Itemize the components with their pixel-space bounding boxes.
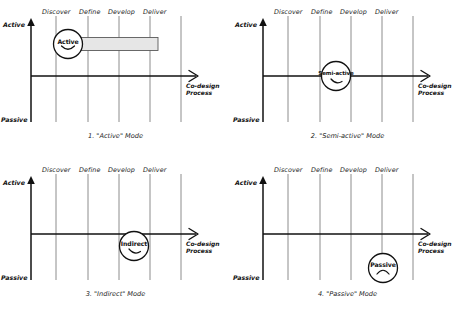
- phase-label-deliver-1: Deliver: [143, 8, 166, 16]
- phase-label-define-4: Define: [311, 166, 332, 174]
- x-axis-label-1: Co-design Process: [186, 82, 220, 97]
- phase-label-discover-3: Discover: [42, 166, 71, 174]
- x-axis-label-line1-2: Co-design: [418, 82, 452, 89]
- phase-label-develop-2: Develop: [340, 8, 367, 16]
- y-axis-bottom-label-3: Passive: [1, 274, 28, 281]
- x-axis-label-line1-1: Co-design: [186, 82, 220, 89]
- node-label-semi-active: Semi-active: [318, 70, 353, 76]
- phase-label-define-1: Define: [79, 8, 100, 16]
- x-axis-label-4: Co-design Process: [418, 240, 452, 255]
- panel-semi-active-mode: Semi-active Active Passive Discover Defi…: [232, 0, 463, 158]
- node-label-passive: Passive: [370, 261, 396, 268]
- x-axis-label-3: Co-design Process: [186, 240, 220, 255]
- figure-four-modes: Active Active Passive Discover Define De…: [0, 0, 463, 316]
- phase-label-define-2: Define: [311, 8, 332, 16]
- x-axis-label-2: Co-design Process: [418, 82, 452, 97]
- phase-label-develop-1: Develop: [108, 8, 135, 16]
- y-axis-top-label-2: Active: [235, 21, 257, 28]
- x-axis-label-line1-3: Co-design: [186, 240, 220, 247]
- phase-label-deliver-4: Deliver: [375, 166, 398, 174]
- phase-label-develop-3: Develop: [108, 166, 135, 174]
- panel-caption-4: 4. "Passive" Mode: [232, 290, 463, 298]
- x-axis-label-line2-4: Process: [418, 247, 444, 254]
- panel-caption-1: 1. "Active" Mode: [0, 132, 231, 140]
- y-axis-bottom-label-2: Passive: [233, 116, 260, 123]
- x-axis-label-line2-1: Process: [186, 89, 212, 96]
- phase-label-discover-4: Discover: [274, 166, 303, 174]
- panel-caption-2: 2. "Semi-active" Mode: [232, 132, 463, 140]
- y-axis-top-label-3: Active: [3, 179, 25, 186]
- panel-active-mode: Active Active Passive Discover Define De…: [0, 0, 231, 158]
- x-axis-label-line2-3: Process: [186, 247, 212, 254]
- y-axis-bottom-label-4: Passive: [233, 274, 260, 281]
- y-axis-bottom-label-1: Passive: [1, 116, 28, 123]
- phase-label-deliver-3: Deliver: [143, 166, 166, 174]
- panel-indirect-mode: Indirect Active Passive Discover Define …: [0, 158, 231, 316]
- node-label-indirect: Indirect: [121, 240, 147, 247]
- panel-passive-mode: Passive Active Passive Discover Define D…: [232, 158, 463, 316]
- phase-label-develop-4: Develop: [340, 166, 367, 174]
- phase-label-define-3: Define: [79, 166, 100, 174]
- node-label-active: Active: [57, 38, 78, 45]
- panel-caption-3: 3. "Indirect" Mode: [0, 290, 231, 298]
- phase-label-deliver-2: Deliver: [375, 8, 398, 16]
- phase-label-discover-1: Discover: [42, 8, 71, 16]
- y-axis-top-label-4: Active: [235, 179, 257, 186]
- y-axis-top-label-1: Active: [3, 21, 25, 28]
- phase-label-discover-2: Discover: [274, 8, 303, 16]
- x-axis-label-line1-4: Co-design: [418, 240, 452, 247]
- x-axis-label-line2-2: Process: [418, 89, 444, 96]
